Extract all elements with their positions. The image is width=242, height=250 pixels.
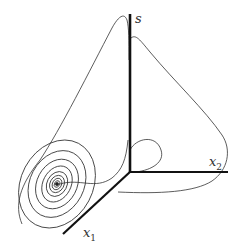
x2-axis-label: x2 bbox=[209, 155, 222, 172]
phase-portrait-figure bbox=[0, 0, 242, 250]
x1-axis-label: x1 bbox=[83, 226, 96, 243]
outer-left-branch bbox=[19, 16, 129, 224]
trajectory bbox=[4, 16, 228, 241]
x2-label-sub: 2 bbox=[216, 162, 222, 172]
small-loop bbox=[130, 139, 162, 172]
x1-axis bbox=[63, 171, 131, 234]
x1-label-sub: 1 bbox=[90, 233, 96, 243]
spiral-focus bbox=[4, 126, 111, 241]
s-axis-label: s bbox=[135, 12, 142, 25]
s-label-text: s bbox=[135, 11, 142, 26]
